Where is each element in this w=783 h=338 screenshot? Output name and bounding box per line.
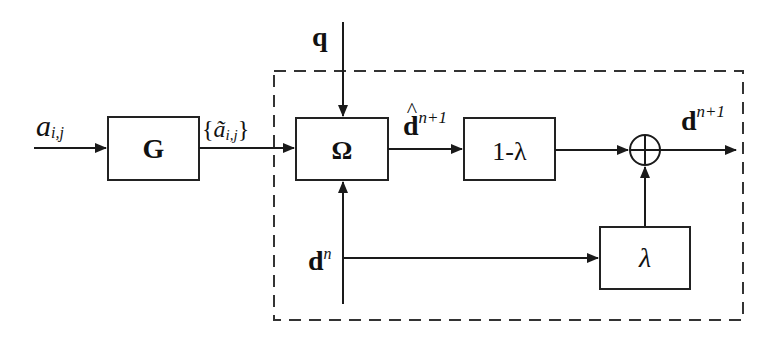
signal-d-hat-label: dn+1 xyxy=(403,108,447,141)
signal-a-tilde-label: {ãi,j} xyxy=(202,116,249,143)
block-one-minus-lambda-label: 1-λ xyxy=(492,137,527,166)
block-G-label: G xyxy=(143,133,165,164)
block-lambda-label: λ xyxy=(638,242,651,273)
input-q-label: q xyxy=(312,21,328,52)
sum-junction xyxy=(630,135,660,165)
input-dn-label: dn xyxy=(308,245,332,276)
input-a-label: ai,j xyxy=(36,109,64,142)
block-diagram: ai,j G {ãi,j} q Ω dn ^ dn+1 1-λ λ dn+1 xyxy=(0,0,783,338)
block-Omega-label: Ω xyxy=(332,136,353,165)
output-d-label: dn+1 xyxy=(681,102,725,136)
